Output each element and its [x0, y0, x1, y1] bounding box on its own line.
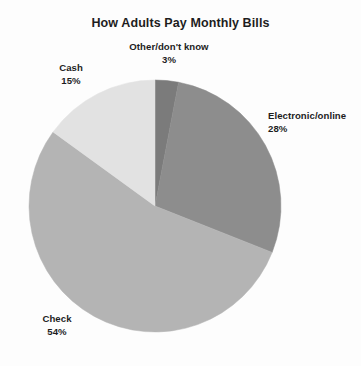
- slice-label-check-name: Check: [22, 313, 92, 326]
- slice-label-electronic-value: 28%: [268, 123, 360, 136]
- slice-label-cash-value: 15%: [36, 75, 106, 88]
- slice-label-cash: Cash 15%: [36, 62, 106, 87]
- pie-chart-figure: How Adults Pay Monthly Bills Other/don't…: [0, 0, 361, 366]
- slice-label-other-name: Other/don't know: [114, 41, 224, 54]
- slice-label-other-value: 3%: [114, 54, 224, 67]
- slice-label-other: Other/don't know 3%: [114, 41, 224, 66]
- slice-label-electronic: Electronic/online 28%: [268, 110, 360, 135]
- slice-label-check: Check 54%: [22, 313, 92, 338]
- pie-slice-group: [29, 80, 281, 332]
- slice-label-electronic-name: Electronic/online: [268, 110, 360, 123]
- slice-label-cash-name: Cash: [36, 62, 106, 75]
- slice-label-check-value: 54%: [22, 326, 92, 339]
